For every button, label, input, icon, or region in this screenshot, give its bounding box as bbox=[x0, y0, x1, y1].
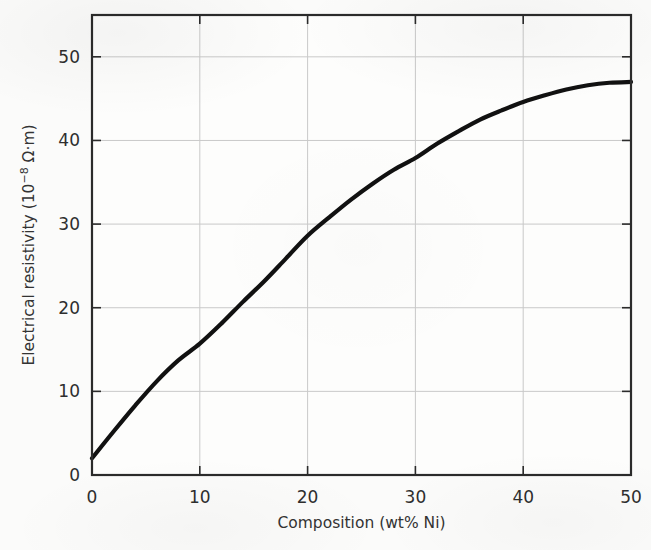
resistivity-composition-chart: 01020304050 01020304050 Composition (wt%… bbox=[0, 0, 651, 550]
figure-container: 01020304050 01020304050 Composition (wt%… bbox=[0, 0, 651, 550]
x-tick-label: 40 bbox=[512, 487, 534, 507]
x-tick-label: 30 bbox=[405, 487, 427, 507]
y-tick-label: 20 bbox=[58, 298, 80, 318]
y-tick-label: 10 bbox=[58, 381, 80, 401]
y-tick-label: 40 bbox=[58, 130, 80, 150]
y-axis-title-prefix: Electrical resistivity (10 bbox=[20, 184, 38, 366]
x-axis-title: Composition (wt% Ni) bbox=[277, 514, 445, 532]
x-tick-label: 20 bbox=[297, 487, 319, 507]
x-tick-labels: 01020304050 bbox=[87, 487, 642, 507]
y-axis-title: Electrical resistivity (10−8 Ω·m) bbox=[18, 124, 38, 365]
x-tick-label: 50 bbox=[620, 487, 642, 507]
y-axis-title-suffix: Ω·m) bbox=[20, 124, 38, 167]
y-tick-label: 30 bbox=[58, 214, 80, 234]
x-tick-label: 0 bbox=[87, 487, 98, 507]
x-tick-label: 10 bbox=[189, 487, 211, 507]
y-axis-title-exponent: −8 bbox=[18, 167, 31, 183]
plot-area-background bbox=[92, 15, 631, 475]
y-tick-label: 0 bbox=[69, 465, 80, 485]
y-tick-label: 50 bbox=[58, 47, 80, 67]
y-tick-labels: 01020304050 bbox=[58, 47, 80, 485]
